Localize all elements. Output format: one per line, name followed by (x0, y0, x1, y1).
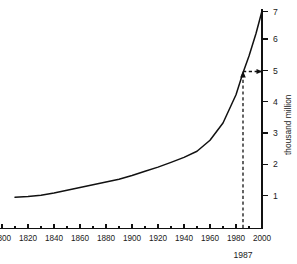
y-tick-label-7: 7 (273, 7, 278, 17)
x-tick-label-1860: 1860 (71, 234, 90, 243)
x-tick-label-1920: 1920 (149, 234, 168, 243)
y-tick-label-5: 5 (273, 66, 278, 76)
chart-canvas: 1800 1820 1840 1860 1880 1900 1920 1940 … (0, 0, 297, 264)
x-tick-label-1980: 1980 (227, 234, 246, 243)
y-tick-label-4: 4 (273, 97, 278, 107)
x-tick-label-1960: 1960 (201, 234, 220, 243)
x-axis-tick-labels: 1800 1820 1840 1860 1880 1900 1920 1940 … (0, 234, 272, 243)
y-tick-label-3: 3 (273, 128, 278, 138)
y-tick-label-1: 1 (273, 191, 278, 201)
x-tick-label-1840: 1840 (45, 234, 64, 243)
population-growth-chart: 1800 1820 1840 1860 1880 1900 1920 1940 … (0, 0, 297, 264)
annotation-label-1987: 1987 (233, 250, 252, 260)
x-tick-label-2000: 2000 (253, 234, 272, 243)
y-axis-ticks (262, 12, 268, 196)
x-tick-label-1880: 1880 (97, 234, 116, 243)
x-tick-label-1900: 1900 (123, 234, 142, 243)
population-curve (15, 11, 262, 197)
x-tick-label-1820: 1820 (19, 234, 38, 243)
y-axis-title: thousand million (283, 94, 293, 155)
x-tick-label-1800: 1800 (0, 234, 12, 243)
y-tick-label-6: 6 (273, 34, 278, 44)
y-tick-label-2: 2 (273, 159, 278, 169)
x-tick-label-1940: 1940 (175, 234, 194, 243)
y-axis-tick-labels: 1 2 3 4 5 6 7 (273, 7, 278, 201)
